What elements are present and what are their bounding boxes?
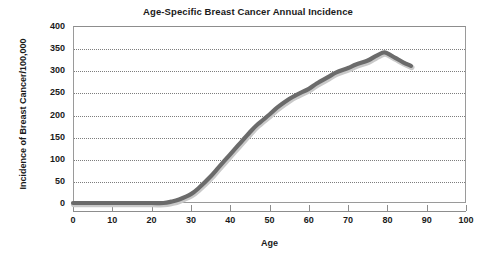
gridline-y-300 — [74, 71, 465, 72]
y-tick-label-300: 300 — [31, 65, 65, 75]
y-tick-label-400: 400 — [31, 21, 65, 31]
x-tick-label-70: 70 — [333, 215, 363, 225]
x-tick-label-100: 100 — [451, 215, 481, 225]
gridline-y-350 — [74, 49, 465, 50]
y-tick-label-100: 100 — [31, 154, 65, 164]
x-tick-label-90: 90 — [412, 215, 442, 225]
gridline-y-100 — [74, 160, 465, 161]
chart-title: Age-Specific Breast Cancer Annual Incide… — [0, 6, 496, 17]
x-tick-50 — [270, 205, 271, 211]
x-tick-0 — [73, 205, 74, 211]
y-tick-label-150: 150 — [31, 132, 65, 142]
gridline-y-250 — [74, 93, 465, 94]
x-tick-10 — [112, 205, 113, 211]
y-tick-label-0: 0 — [31, 198, 65, 208]
x-tick-label-30: 30 — [176, 215, 206, 225]
gridline-y-200 — [74, 116, 465, 117]
x-tick-90 — [427, 205, 428, 211]
gridline-y-50 — [74, 182, 465, 183]
x-tick-40 — [230, 205, 231, 211]
x-tick-100 — [466, 205, 467, 211]
x-tick-label-20: 20 — [137, 215, 167, 225]
x-tick-80 — [387, 205, 388, 211]
x-axis-line — [73, 211, 466, 212]
x-tick-label-0: 0 — [58, 215, 88, 225]
x-axis-title: Age — [73, 238, 466, 248]
x-tick-label-80: 80 — [372, 215, 402, 225]
x-tick-label-60: 60 — [294, 215, 324, 225]
x-tick-70 — [348, 205, 349, 211]
y-tick-label-50: 50 — [31, 176, 65, 186]
plot-area — [73, 26, 466, 203]
y-tick-label-350: 350 — [31, 43, 65, 53]
x-tick-label-10: 10 — [97, 215, 127, 225]
y-axis-title: Incidence of Breast Cancer/100,000 — [18, 34, 28, 194]
x-tick-label-40: 40 — [215, 215, 245, 225]
x-tick-30 — [191, 205, 192, 211]
x-tick-label-50: 50 — [255, 215, 285, 225]
y-tick-label-250: 250 — [31, 87, 65, 97]
x-tick-20 — [152, 205, 153, 211]
gridline-y-150 — [74, 138, 465, 139]
x-tick-60 — [309, 205, 310, 211]
y-tick-label-200: 200 — [31, 110, 65, 120]
chart-container: Age-Specific Breast Cancer Annual Incide… — [0, 0, 496, 262]
